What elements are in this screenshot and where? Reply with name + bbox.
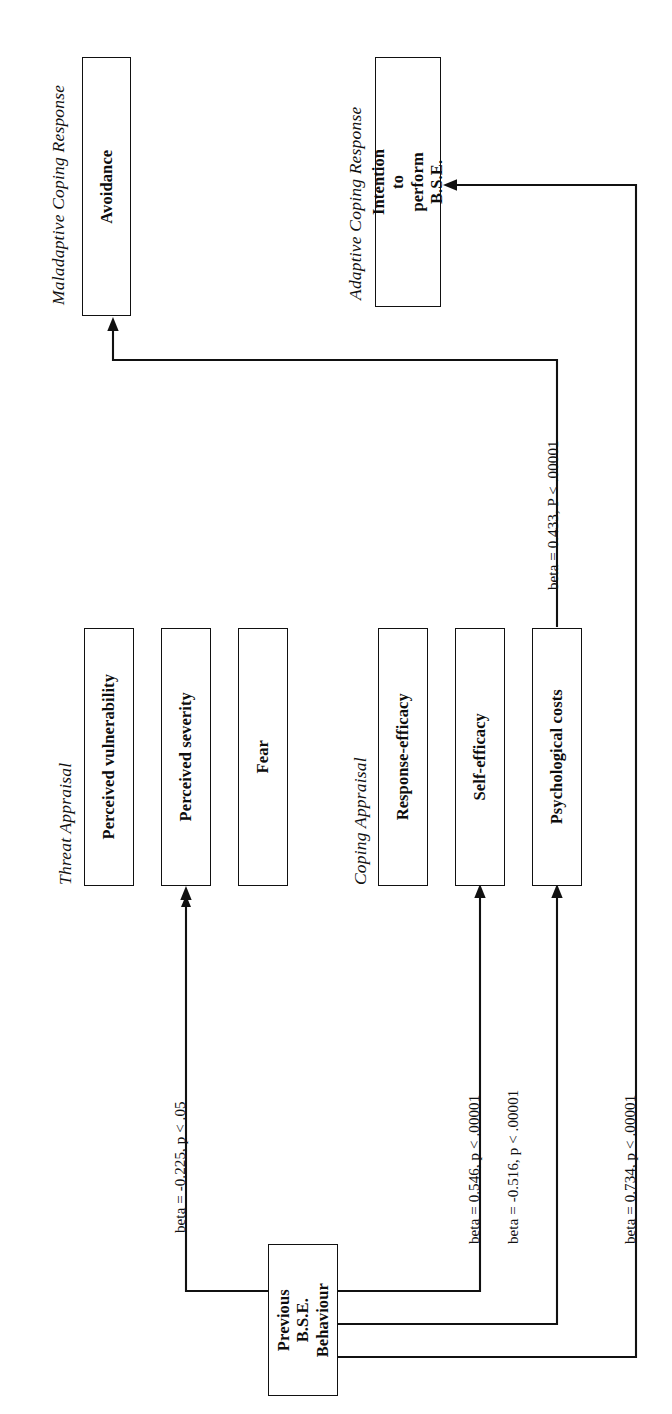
node-fear[interactable]: Fear [238,628,288,886]
path-diagram-figure: Maladaptive Coping Response Adaptive Cop… [0,0,672,1414]
connector-psychological-costs-to-avoidance [107,317,557,627]
node-avoidance-label: Avoidance [97,150,116,224]
node-perceived-severity[interactable]: Perceived severity [161,628,211,886]
node-perceived-severity-label: Perceived severity [176,692,195,821]
node-intention-to-perform-bse-label: Intention to perform B.S.E. [369,149,447,215]
edge-label-previous-to-psychological-costs: beta = -0.516, p < .00001 [505,1090,522,1244]
edge-label-psychological-costs-to-avoidance: beta = 0.433, P < .00001 [545,440,562,590]
node-fear-label: Fear [253,740,272,773]
section-label-maladaptive-coping-response: Maladaptive Coping Response [48,85,69,305]
node-self-efficacy[interactable]: Self-efficacy [455,628,505,886]
node-intention-to-perform-bse[interactable]: Intention to perform B.S.E. [375,57,441,307]
section-label-coping-appraisal: Coping Appraisal [350,757,371,885]
node-previous-bse-behaviour-label: Previous B.S.E. Behaviour [274,1283,332,1357]
edge-label-previous-to-perceived-severity: beta = -0.225, p < .05 [172,1101,189,1233]
node-perceived-vulnerability[interactable]: Perceived vulnerability [84,628,134,886]
section-label-threat-appraisal: Threat Appraisal [55,763,76,885]
node-self-efficacy-label: Self-efficacy [470,713,489,800]
node-previous-bse-behaviour[interactable]: Previous B.S.E. Behaviour [268,1244,338,1396]
node-perceived-vulnerability-label: Perceived vulnerability [99,674,118,840]
connector-previous-to-psychological-costs [338,884,563,1324]
node-psychological-costs[interactable]: Psychological costs [532,628,582,886]
connector-previous-to-self-efficacy [338,884,486,1291]
connector-previous-to-perceived-severity [180,886,268,1291]
node-avoidance[interactable]: Avoidance [82,57,131,316]
node-response-efficacy[interactable]: Response-efficacy [378,628,428,886]
node-psychological-costs-label: Psychological costs [547,689,566,824]
node-response-efficacy-label: Response-efficacy [393,693,412,820]
section-label-adaptive-coping-response: Adaptive Coping Response [345,107,366,300]
edge-label-previous-to-self-efficacy: beta = 0.546, p < .00001 [466,1095,483,1244]
edge-label-previous-to-intention: beta = 0.734, p < .00001 [622,1095,639,1244]
